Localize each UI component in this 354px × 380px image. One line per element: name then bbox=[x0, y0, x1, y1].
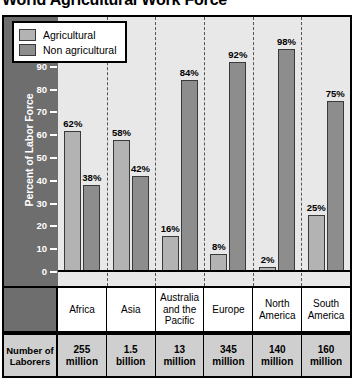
y-axis-tick-label: 0 bbox=[42, 266, 47, 277]
laborers-amount: 345 bbox=[220, 344, 237, 355]
bar-non-agricultural[interactable]: 42% bbox=[132, 176, 149, 272]
category-label-cell: Australiaand thePacific bbox=[156, 288, 205, 331]
y-axis-tick-label: 30 bbox=[36, 198, 47, 209]
legend-label-non-agricultural: Non agricultural bbox=[43, 44, 117, 56]
bar-value-label: 62% bbox=[63, 118, 82, 129]
category-label-line: America bbox=[308, 310, 345, 321]
laborers-unit: million bbox=[212, 356, 244, 367]
legend-item-agricultural: Agricultural bbox=[19, 27, 117, 42]
bar-agricultural[interactable]: 16% bbox=[162, 236, 179, 272]
bar-group: 8%92% bbox=[204, 17, 253, 286]
y-axis-tick-mark-icon bbox=[50, 157, 57, 159]
laborers-row: Number ofLaborers 255million1.5billion13… bbox=[2, 333, 352, 378]
category-label-row: AfricaAsiaAustraliaand thePacificEuropeN… bbox=[2, 288, 352, 333]
category-label-line: Asia bbox=[121, 304, 140, 315]
bar-value-label: 2% bbox=[261, 254, 275, 265]
y-axis-tick-label: 20 bbox=[36, 220, 47, 231]
y-axis-tick-label: 50 bbox=[36, 152, 47, 163]
bar-agricultural[interactable]: 62% bbox=[64, 131, 81, 272]
bar-agricultural[interactable]: 58% bbox=[113, 140, 130, 272]
bar-value-label: 38% bbox=[82, 172, 101, 183]
bar-pair: 58%42% bbox=[107, 44, 156, 272]
category-label-line: America bbox=[259, 310, 296, 321]
y-axis-tick-mark-icon bbox=[50, 180, 57, 182]
category-label-cell: SouthAmerica bbox=[302, 288, 350, 331]
y-axis-tick-label: 10 bbox=[36, 243, 47, 254]
laborers-header-line2: Laborers bbox=[10, 356, 51, 367]
bar-agricultural[interactable]: 25% bbox=[308, 215, 325, 272]
y-axis-tick-label: 80 bbox=[36, 84, 47, 95]
y-axis-tick-label: 60 bbox=[36, 129, 47, 140]
y-axis-tick-mark-icon bbox=[50, 248, 57, 250]
y-axis-tick-label: 70 bbox=[36, 106, 47, 117]
bar-non-agricultural[interactable]: 98% bbox=[278, 49, 295, 272]
laborers-value-cell: 160million bbox=[302, 335, 350, 376]
y-axis-tick-mark-icon bbox=[50, 225, 57, 227]
y-axis-tick-mark-icon bbox=[50, 89, 57, 91]
laborers-amount: 1.5 bbox=[124, 344, 138, 355]
y-axis-title: Percent of Labor Force bbox=[23, 70, 35, 230]
laborers-amount: 160 bbox=[318, 344, 335, 355]
bar-non-agricultural[interactable]: 38% bbox=[83, 185, 100, 272]
legend-label-agricultural: Agricultural bbox=[43, 29, 96, 41]
laborers-unit: million bbox=[163, 356, 195, 367]
laborers-amount: 13 bbox=[174, 344, 185, 355]
laborers-unit: billion bbox=[116, 356, 145, 367]
bar-pair: 62%38% bbox=[58, 44, 107, 272]
laborers-unit: million bbox=[66, 356, 98, 367]
laborers-amount: 255 bbox=[74, 344, 91, 355]
category-label-line: Australia bbox=[160, 292, 199, 303]
y-axis-tick-mark-icon bbox=[50, 203, 57, 205]
bar-non-agricultural[interactable]: 84% bbox=[181, 80, 198, 272]
laborers-value-cell: 345million bbox=[204, 335, 253, 376]
bar-non-agricultural[interactable]: 75% bbox=[327, 101, 344, 272]
legend-swatch-icon-agricultural bbox=[19, 29, 36, 41]
y-axis-tick-mark-icon bbox=[50, 111, 57, 113]
x-axis-baseline bbox=[58, 270, 350, 272]
bar-value-label: 92% bbox=[228, 49, 247, 60]
bar-value-label: 8% bbox=[212, 241, 226, 252]
legend-swatch-icon-non-agricultural bbox=[19, 44, 36, 56]
bar-value-label: 75% bbox=[326, 88, 345, 99]
category-label-line: and the bbox=[163, 304, 196, 315]
bar-non-agricultural[interactable]: 92% bbox=[229, 62, 246, 272]
laborers-amount: 140 bbox=[269, 344, 286, 355]
category-label-cell: Asia bbox=[107, 288, 156, 331]
category-label-line: Pacific bbox=[165, 315, 194, 326]
laborers-value-cell: 140million bbox=[253, 335, 302, 376]
category-label-line: North bbox=[265, 298, 289, 309]
bar-value-label: 25% bbox=[307, 202, 326, 213]
bar-pair: 25%75% bbox=[301, 44, 350, 272]
bar-pair: 16%84% bbox=[155, 44, 204, 272]
bar-value-label: 42% bbox=[131, 163, 150, 174]
category-row-spacer bbox=[4, 288, 58, 331]
laborers-value-cell: 1.5billion bbox=[107, 335, 156, 376]
chart-title: World Agricultural Work Force bbox=[2, 0, 352, 9]
bar-group: 16%84% bbox=[155, 17, 204, 286]
category-label-cell: Europe bbox=[204, 288, 253, 331]
bar-value-label: 84% bbox=[180, 67, 199, 78]
bar-value-label: 16% bbox=[161, 223, 180, 234]
laborers-header-line1: Number of bbox=[6, 345, 54, 356]
category-label-cell: NorthAmerica bbox=[253, 288, 302, 331]
legend-item-non-agricultural: Non agricultural bbox=[19, 42, 117, 57]
laborers-row-header: Number ofLaborers bbox=[4, 335, 58, 376]
bar-value-label: 98% bbox=[277, 36, 296, 47]
bar-value-label: 58% bbox=[112, 127, 131, 138]
y-axis-tick-mark-icon bbox=[50, 66, 57, 68]
laborers-value-cell: 13million bbox=[156, 335, 205, 376]
chart-page: World Agricultural Work Force Percent of… bbox=[0, 0, 354, 380]
laborers-unit: million bbox=[310, 356, 342, 367]
bar-pair: 8%92% bbox=[204, 44, 253, 272]
category-label-line: Africa bbox=[69, 304, 95, 315]
bar-group: 2%98% bbox=[253, 17, 302, 286]
chart-legend: Agricultural Non agricultural bbox=[12, 21, 127, 63]
laborers-value-cell: 255million bbox=[58, 335, 107, 376]
y-axis-tick-label: 40 bbox=[36, 175, 47, 186]
bar-group: 25%75% bbox=[301, 17, 350, 286]
category-label-line: Europe bbox=[212, 304, 244, 315]
y-axis-tick-mark-icon bbox=[50, 271, 57, 273]
y-axis-tick-mark-icon bbox=[50, 134, 57, 136]
bar-pair: 2%98% bbox=[253, 44, 302, 272]
laborers-unit: million bbox=[261, 356, 293, 367]
